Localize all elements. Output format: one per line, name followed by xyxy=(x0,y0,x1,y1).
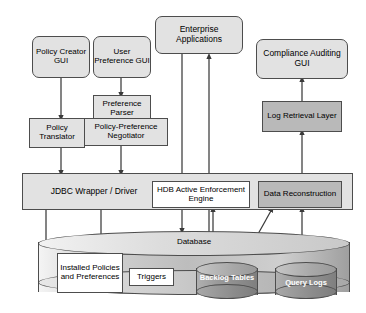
node-label: Backlog Tables xyxy=(196,274,258,282)
node-data-reconstruction[interactable]: Data Reconstruction xyxy=(258,181,342,208)
node-triggers[interactable]: Triggers xyxy=(129,268,174,286)
cylinder-top xyxy=(275,262,337,277)
node-label: Log Retrieval Layer xyxy=(267,112,336,121)
architecture-diagram: Policy Creator GUI User Preference GUI E… xyxy=(0,0,366,313)
node-compliance-auditing-gui[interactable]: Compliance Auditing GUI xyxy=(256,39,348,79)
query-logs-cylinder[interactable]: Query Logs xyxy=(275,262,337,302)
node-label: Policy-Preference Negotiator xyxy=(85,123,167,141)
node-label: Preference Parser xyxy=(94,100,150,118)
backlog-tables-cylinder[interactable]: Backlog Tables xyxy=(196,262,258,302)
node-installed-policies-and-preferences[interactable]: Installed Policies and Preferences xyxy=(57,253,123,293)
node-user-preference-gui[interactable]: User Preference GUI xyxy=(93,36,151,78)
node-policy-translator[interactable]: Policy Translator xyxy=(29,118,85,148)
node-label: Query Logs xyxy=(275,278,337,287)
node-label: Enterprise Applications xyxy=(156,25,242,44)
node-label: Policy Creator GUI xyxy=(33,48,89,66)
node-label: Installed Policies and Preferences xyxy=(58,264,122,282)
node-enterprise-applications[interactable]: Enterprise Applications xyxy=(155,16,243,54)
node-label: Triggers xyxy=(137,273,166,282)
node-hdb-active-enforcement-engine[interactable]: HDB Active Enforcement Engine xyxy=(152,181,250,208)
node-policy-creator-gui[interactable]: Policy Creator GUI xyxy=(32,36,90,78)
database-label: Database xyxy=(38,237,350,246)
node-label: Compliance Auditing GUI xyxy=(257,49,347,68)
node-label: Data Reconstruction xyxy=(264,190,336,199)
node-label: JDBC Wrapper / Driver xyxy=(51,186,138,196)
node-jdbc-wrapper-driver[interactable]: JDBC Wrapper / Driver xyxy=(30,182,158,200)
node-label: User Preference GUI xyxy=(94,48,150,66)
node-policy-preference-negotiator[interactable]: Policy-Preference Negotiator xyxy=(84,118,168,146)
node-log-retrieval-layer[interactable]: Log Retrieval Layer xyxy=(262,101,342,132)
node-label: HDB Active Enforcement Engine xyxy=(153,186,249,204)
cylinder-bottom xyxy=(196,284,258,299)
node-label: Policy Translator xyxy=(30,124,84,142)
